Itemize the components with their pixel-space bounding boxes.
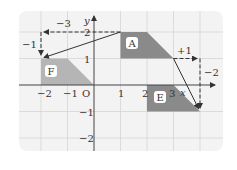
svg-text:A: A [128, 38, 137, 49]
y-tick-neg1: −1 [79, 107, 94, 118]
x-tick-2: 2 [142, 88, 148, 99]
svg-text:F: F [48, 66, 55, 77]
x-tick-1: 1 [118, 88, 124, 99]
x-tick-neg2: −2 [37, 88, 52, 99]
y-axis-label: y [83, 15, 90, 26]
tag-e: E [154, 91, 166, 103]
tag-a: A [126, 37, 138, 49]
y-tick-neg2: −2 [79, 133, 94, 144]
translation-diagram: −2 −1 O 1 2 3 x 2 1 −1 −2 y −3 −1 +1 −2 … [0, 0, 237, 170]
y-tick-1: 1 [84, 54, 90, 65]
dx-label-ae: +1 [177, 45, 192, 56]
x-tick-3: 3 [169, 88, 175, 99]
dy-label-ae: −2 [204, 67, 219, 78]
x-tick-neg1: −1 [63, 88, 78, 99]
dy-label-af: −1 [22, 39, 37, 50]
origin-label: O [82, 88, 90, 99]
x-axis-label: x [180, 87, 186, 98]
svg-text:E: E [157, 92, 164, 103]
tag-f: F [45, 65, 57, 77]
dx-label-af: −3 [56, 18, 71, 29]
